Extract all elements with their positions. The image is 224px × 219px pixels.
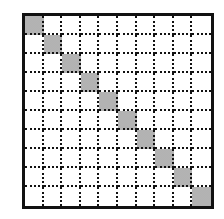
grid-cell [44, 130, 63, 149]
grid-cell [25, 130, 44, 149]
grid-cell [137, 54, 156, 73]
grid-cell [25, 54, 44, 73]
grid-cell [192, 54, 211, 73]
grid-cell [25, 73, 44, 92]
grid-cell [25, 168, 44, 187]
grid-cell [192, 168, 211, 187]
grid-cell [137, 168, 156, 187]
grid-cell [174, 16, 193, 35]
grid-cell [155, 111, 174, 130]
grid-cell [81, 149, 100, 168]
grid-cell [44, 187, 63, 206]
grid-cell [192, 73, 211, 92]
grid-cell [137, 187, 156, 206]
grid-cell [155, 16, 174, 35]
grid-cell [155, 92, 174, 111]
grid-cell [25, 35, 44, 54]
grid-cell [81, 92, 100, 111]
grid-cell [192, 35, 211, 54]
grid-cell-shaded [44, 35, 63, 54]
grid-cell [137, 73, 156, 92]
grid-cell [25, 92, 44, 111]
grid-cell [99, 35, 118, 54]
grid-cell [62, 111, 81, 130]
grid-cell [118, 168, 137, 187]
grid-cell [81, 16, 100, 35]
grid-cell [118, 149, 137, 168]
grid-cell [62, 35, 81, 54]
grid-cell [118, 187, 137, 206]
grid-cell [44, 92, 63, 111]
grid-cell [99, 54, 118, 73]
grid-cell [44, 111, 63, 130]
grid-cell [174, 111, 193, 130]
grid-cell [192, 16, 211, 35]
grid-cell-shaded [25, 16, 44, 35]
grid-cell [62, 130, 81, 149]
grid-cell [155, 187, 174, 206]
grid-cell [62, 187, 81, 206]
grid-cell [62, 168, 81, 187]
grid-cell-shaded [192, 187, 211, 206]
grid-cell [25, 111, 44, 130]
grid-cell [174, 130, 193, 149]
grid-cell [155, 168, 174, 187]
grid-cell [81, 35, 100, 54]
grid-cell [192, 92, 211, 111]
grid-cell-shaded [118, 111, 137, 130]
grid-cell [155, 54, 174, 73]
grid-cell [62, 73, 81, 92]
grid-cell [25, 187, 44, 206]
grid-cell [118, 130, 137, 149]
grid-frame [22, 13, 214, 209]
grid-cell [174, 92, 193, 111]
grid-cell [118, 54, 137, 73]
grid-cell [99, 73, 118, 92]
grid-cell [192, 111, 211, 130]
grid-cell [99, 16, 118, 35]
grid-cell [118, 16, 137, 35]
grid-cell [137, 16, 156, 35]
grid-cell [81, 54, 100, 73]
grid-cell [137, 149, 156, 168]
grid-cell [81, 130, 100, 149]
diagonal-grid [25, 16, 211, 206]
grid-cell-shaded [99, 92, 118, 111]
grid-cell [44, 149, 63, 168]
grid-cell-shaded [81, 73, 100, 92]
grid-cell-shaded [155, 149, 174, 168]
grid-cell [62, 149, 81, 168]
grid-cell [44, 73, 63, 92]
grid-cell [99, 187, 118, 206]
grid-cell [118, 92, 137, 111]
grid-cell [137, 92, 156, 111]
grid-cell [81, 111, 100, 130]
grid-cell [174, 35, 193, 54]
grid-cell [99, 149, 118, 168]
grid-cell [81, 168, 100, 187]
grid-cell [118, 73, 137, 92]
grid-cell [118, 35, 137, 54]
grid-cell [155, 130, 174, 149]
grid-cell-shaded [137, 130, 156, 149]
grid-cell [192, 130, 211, 149]
grid-cell-shaded [62, 54, 81, 73]
grid-cell [174, 54, 193, 73]
grid-cell [62, 16, 81, 35]
grid-cell [44, 54, 63, 73]
grid-cell [25, 149, 44, 168]
grid-cell [137, 35, 156, 54]
grid-cell [174, 187, 193, 206]
grid-cell [99, 168, 118, 187]
grid-cell [44, 168, 63, 187]
grid-cell [155, 73, 174, 92]
grid-cell [155, 35, 174, 54]
grid-cell [174, 73, 193, 92]
grid-cell [174, 149, 193, 168]
grid-cell [137, 111, 156, 130]
grid-cell [44, 16, 63, 35]
grid-cell [81, 187, 100, 206]
grid-cell [62, 92, 81, 111]
grid-cell [99, 130, 118, 149]
grid-cell [99, 111, 118, 130]
